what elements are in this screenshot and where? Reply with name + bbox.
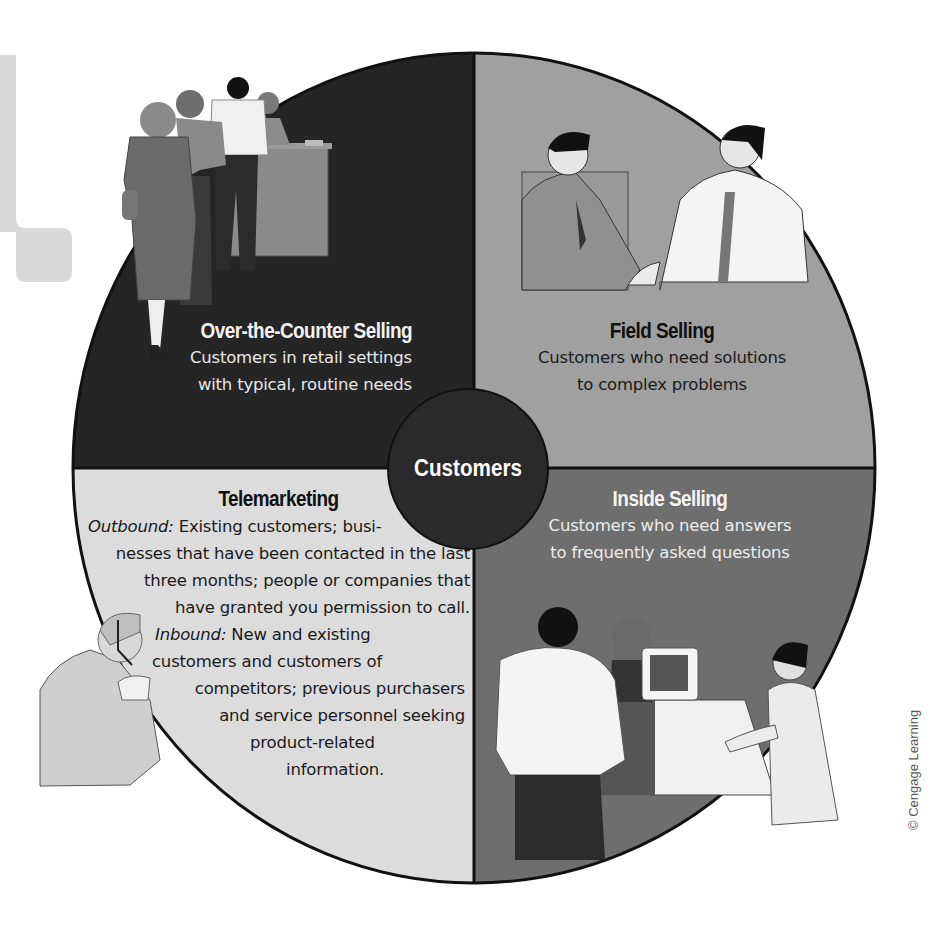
telemarketing-outbound-line: nesses that have been contacted in the l… xyxy=(116,540,470,567)
telemarketing-inbound-line: product-related xyxy=(250,729,375,756)
telemarketing-inbound-line: and service personnel seeking xyxy=(219,702,465,729)
customer-selling-diagram: Over-the-Counter Selling Customers in re… xyxy=(0,0,944,937)
quadrant-description-line: Customers who need solutions xyxy=(512,344,812,371)
center-label-wrap: Customers xyxy=(388,454,548,482)
center-label: Customers xyxy=(399,454,537,482)
telemarketing-outbound-line: Outbound: Existing customers; busi- xyxy=(88,513,381,540)
copyright-credit: © Cengage Learning xyxy=(906,710,921,830)
quadrant-over-the-counter-text: Over-the-Counter Selling Customers in re… xyxy=(150,318,412,398)
telemarketing-inbound-line: Inbound: New and existing xyxy=(155,621,370,648)
quadrant-title: Inside Selling xyxy=(541,486,799,512)
quadrant-description-line: Customers in retail settings xyxy=(150,344,412,371)
telemarketing-inbound-line: information. xyxy=(286,756,384,783)
quadrant-telemarketing-title-wrap: Telemarketing xyxy=(210,486,330,512)
headset-woman-illustration xyxy=(40,613,160,786)
quadrant-description-line: to complex problems xyxy=(512,371,812,398)
quadrant-description-line: with typical, routine needs xyxy=(150,371,412,398)
decorative-bracket xyxy=(0,55,72,282)
telemarketing-inbound-line: customers and customers of xyxy=(152,648,382,675)
inbound-label: Inbound: xyxy=(155,625,226,644)
quadrant-description-line: to frequently asked questions xyxy=(520,539,820,566)
telemarketing-outbound-line: three months; people or companies that xyxy=(144,567,470,594)
outbound-label: Outbound: xyxy=(88,517,174,536)
telemarketing-inbound-line: competitors; previous purchasers xyxy=(195,675,465,702)
telemarketing-outbound-line: have granted you permission to call. xyxy=(175,594,470,621)
quadrant-field-selling-text: Field Selling Customers who need solutio… xyxy=(512,318,812,398)
quadrant-description-line: Customers who need answers xyxy=(520,512,820,539)
quadrant-title: Over-the-Counter Selling xyxy=(187,318,412,344)
quadrant-inside-selling-text: Inside Selling Customers who need answer… xyxy=(520,486,820,566)
quadrant-title: Telemarketing xyxy=(218,486,321,512)
quadrant-title: Field Selling xyxy=(533,318,791,344)
